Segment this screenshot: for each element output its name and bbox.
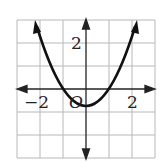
y-label-2: 2 (71, 33, 82, 53)
parabola-graph: −2 2 2 O (0, 0, 167, 162)
x-label-2: 2 (127, 92, 138, 112)
origin-label: O (69, 92, 83, 112)
axes (17, 19, 155, 159)
x-label-neg2: −2 (24, 92, 49, 112)
x-axis-right-arrow-icon (145, 86, 155, 93)
